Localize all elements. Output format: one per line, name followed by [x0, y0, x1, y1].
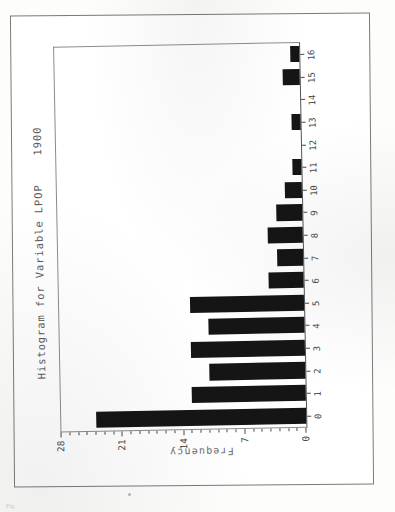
category-tick-label: 1 — [313, 391, 323, 397]
frequency-tick-minor — [253, 429, 254, 432]
frequency-tick-minor — [209, 430, 210, 433]
category-tick — [306, 370, 310, 371]
frequency-tick-minor — [235, 429, 236, 432]
frequency-tick-minor — [148, 431, 149, 434]
category-tick — [304, 235, 308, 236]
category-tick — [301, 99, 305, 100]
category-tick-label: 16 — [306, 49, 316, 60]
category-tick-label: 11 — [308, 162, 318, 173]
frequency-tick-minor — [104, 432, 105, 435]
frequency-tick-minor — [78, 432, 79, 435]
category-tick-label: 9 — [309, 210, 319, 216]
category-tick — [302, 144, 306, 145]
bar — [268, 272, 303, 289]
bar — [292, 114, 301, 130]
bar — [191, 340, 305, 358]
category-tick — [307, 415, 311, 416]
frequency-tick-minor — [218, 430, 219, 433]
bar — [268, 227, 303, 244]
category-tick-label: 14 — [307, 95, 317, 106]
category-tick-label: 5 — [311, 301, 321, 307]
category-tick-label: 3 — [312, 346, 322, 352]
category-tick — [306, 348, 310, 349]
category-tick — [307, 393, 311, 394]
frequency-tick-major — [244, 429, 245, 434]
frequency-tick-minor — [157, 431, 158, 434]
figure-frame: Histogram for Variable LPOP 1900 0123456… — [10, 12, 374, 487]
frequency-axis-title: Frequency — [101, 444, 301, 459]
bar — [192, 385, 306, 403]
frequency-tick-major — [60, 433, 61, 438]
bar — [290, 46, 299, 62]
category-tick — [300, 54, 304, 55]
bar — [282, 69, 300, 86]
frequency-tick-minor — [87, 432, 88, 435]
category-tick — [304, 257, 308, 258]
frequency-tick-minor — [192, 430, 193, 433]
category-tick — [305, 325, 309, 326]
category-tick — [305, 280, 309, 281]
frequency-tick-minor — [270, 429, 271, 432]
bar — [209, 362, 306, 380]
category-tick-label: 0 — [313, 414, 323, 420]
bar — [276, 204, 303, 221]
category-tick — [302, 122, 306, 123]
frequency-tick-minor — [297, 428, 298, 431]
histogram-chart: Histogram for Variable LPOP 1900 0123456… — [23, 21, 362, 479]
frequency-tick-label: 28 — [55, 440, 66, 452]
scanned-page: Histogram for Variable LPOP 1900 0123456… — [0, 0, 395, 512]
frequency-tick-minor — [174, 430, 175, 433]
bar — [284, 182, 302, 199]
category-tick-label: 8 — [310, 233, 320, 239]
frequency-tick-minor — [262, 429, 263, 432]
frequency-tick-label: 7 — [239, 437, 250, 443]
plot-area — [53, 42, 307, 433]
category-tick-label: 7 — [310, 255, 320, 261]
category-tick — [301, 77, 305, 78]
bar — [96, 407, 306, 427]
bar — [293, 159, 302, 175]
frequency-tick-minor — [279, 428, 280, 431]
bar — [190, 295, 304, 313]
category-tick — [302, 167, 306, 168]
category-tick-label: 2 — [312, 368, 322, 374]
margin-mark — [128, 493, 131, 496]
category-tick — [303, 212, 307, 213]
frequency-tick-minor — [165, 431, 166, 434]
frequency-tick-label: 21 — [116, 439, 127, 451]
page-caption: Fig. — [6, 503, 16, 509]
category-tick-label: 13 — [307, 117, 317, 128]
frequency-tick-minor — [130, 431, 131, 434]
frequency-axis: Frequency 07142128 — [60, 428, 310, 479]
chart-title: Histogram for Variable LPOP 1900 — [29, 27, 50, 479]
bar — [277, 249, 304, 266]
category-tick-label: 12 — [308, 140, 318, 151]
frequency-tick-major — [305, 428, 306, 433]
category-tick-label: 10 — [309, 185, 319, 196]
frequency-tick-minor — [113, 432, 114, 435]
bar — [208, 317, 305, 335]
frequency-tick-minor — [139, 431, 140, 434]
frequency-tick-major — [122, 431, 123, 436]
frequency-tick-minor — [69, 432, 70, 435]
category-tick-label: 6 — [311, 278, 321, 284]
frequency-tick-label: 14 — [178, 438, 189, 450]
category-tick — [305, 303, 309, 304]
frequency-tick-label: 0 — [300, 436, 311, 442]
frequency-tick-minor — [227, 429, 228, 432]
frequency-tick-major — [183, 430, 184, 435]
category-tick — [303, 190, 307, 191]
frequency-tick-minor — [288, 428, 289, 431]
category-tick-label: 4 — [311, 323, 321, 329]
frequency-tick-minor — [95, 432, 96, 435]
frequency-tick-minor — [200, 430, 201, 433]
category-tick-label: 15 — [307, 72, 317, 83]
